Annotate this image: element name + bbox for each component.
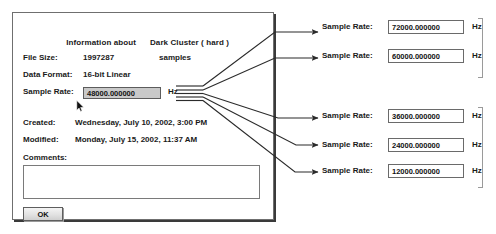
comments-input[interactable] (23, 165, 260, 199)
side-sample-rate-input-5[interactable]: 12000.000000 (388, 164, 464, 178)
created-row: Created:Wednesday, July 10, 2002, 3:00 P… (23, 118, 207, 127)
sample-rate-label: Sample Rate: (23, 87, 83, 96)
dialog-title-filename: Dark Cluster ( hard ) (150, 38, 229, 47)
modified-label: Modified: (23, 135, 75, 144)
file-size-unit: samples (159, 53, 191, 62)
sample-rate-input[interactable]: 48000.000000 (83, 87, 161, 99)
side-sample-rate-input-2[interactable]: 60000.000000 (388, 49, 464, 63)
side-sample-rate-label-4: Sample Rate: (322, 140, 384, 149)
created-label: Created: (23, 118, 75, 127)
dialog-title: Information aboutDark Cluster ( hard ) (13, 29, 273, 56)
side-sample-rate-input-3[interactable]: 36000.000000 (388, 109, 464, 123)
dialog-title-prefix: Information about (66, 38, 136, 47)
file-size-value: 1997287 (83, 53, 159, 62)
comments-label: Comments: (23, 153, 67, 162)
side-sample-rate-label-2: Sample Rate: (322, 51, 384, 60)
group-bracket-lower (478, 107, 483, 188)
side-sample-rate-label-1: Sample Rate: (322, 22, 384, 31)
data-format-label: Data Format: (23, 70, 83, 79)
side-sample-rate-input-1[interactable]: 72000.000000 (388, 20, 464, 34)
file-size-row: File Size:1997287samples (23, 53, 191, 62)
data-format-row: Data Format:16-bit Linear (23, 70, 131, 79)
data-format-value: 16-bit Linear (83, 70, 131, 79)
created-value: Wednesday, July 10, 2002, 3:00 PM (75, 118, 207, 127)
modified-row: Modified:Monday, July 15, 2002, 11:37 AM (23, 135, 197, 144)
file-size-label: File Size: (23, 53, 83, 62)
side-sample-rate-label-3: Sample Rate: (322, 111, 384, 120)
side-sample-rate-input-4[interactable]: 24000.000000 (388, 138, 464, 152)
file-info-dialog: Information aboutDark Cluster ( hard ) F… (12, 12, 274, 220)
ok-button[interactable]: OK (23, 207, 63, 221)
sample-rate-unit: Hz (168, 87, 178, 96)
modified-value: Monday, July 15, 2002, 11:37 AM (75, 135, 197, 144)
sample-rate-row: Sample Rate:48000.000000Hz (23, 87, 178, 99)
group-bracket-upper (478, 18, 483, 78)
mouse-cursor-icon (76, 100, 85, 112)
side-sample-rate-label-5: Sample Rate: (322, 166, 384, 175)
